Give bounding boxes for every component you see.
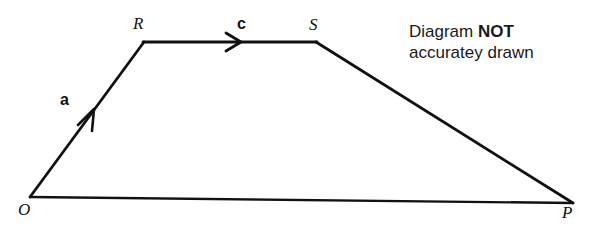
note-line-1-prefix: Diagram bbox=[409, 22, 478, 41]
geometry-diagram: O R S P a c Diagram NOT accuratey drawn bbox=[0, 0, 592, 239]
vector-label-c: c bbox=[237, 16, 246, 32]
vertex-label-s: S bbox=[309, 16, 318, 33]
vertex-label-p: P bbox=[562, 204, 572, 221]
edge-or bbox=[30, 42, 144, 197]
note-line-1: Diagram NOT bbox=[409, 21, 534, 42]
edge-sp bbox=[316, 42, 573, 203]
vector-label-a: a bbox=[60, 92, 69, 108]
note-line-2: accuratey drawn bbox=[409, 42, 534, 63]
edge-op bbox=[30, 197, 573, 203]
vertex-label-o: O bbox=[18, 201, 30, 218]
vertex-label-r: R bbox=[133, 15, 143, 32]
note-emphasis-not: NOT bbox=[478, 22, 514, 41]
diagram-note: Diagram NOT accuratey drawn bbox=[409, 21, 534, 63]
